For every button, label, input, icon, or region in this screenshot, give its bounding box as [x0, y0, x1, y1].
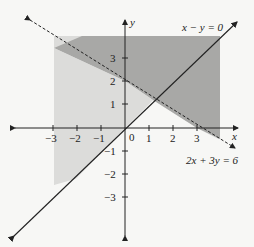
- xtick-label-neg3: −3: [45, 132, 57, 144]
- ytick-label-1: 1: [110, 98, 116, 110]
- xtick-label-3: 3: [194, 132, 200, 144]
- ytick-label-neg1: −1: [104, 145, 116, 157]
- xtick-label-2: 2: [170, 132, 176, 144]
- xtick-label-neg1: −1: [93, 132, 105, 144]
- ytick-label-neg2: −2: [104, 168, 116, 180]
- ytick-label-2: 2: [110, 75, 116, 87]
- y-axis-label: y: [129, 16, 135, 28]
- line-label-2x-plus-3y: 2x + 3y = 6: [186, 154, 239, 166]
- region-plot: −3 −2 −1 0 1 2 3 3 2 1 −1 −2 −3 x y x − …: [0, 0, 254, 247]
- ytick-label-3: 3: [110, 52, 116, 64]
- x-axis-label: x: [231, 130, 237, 142]
- origin-label: 0: [129, 131, 135, 143]
- xtick-label-1: 1: [146, 132, 152, 144]
- line-label-x-minus-y: x − y = 0: [181, 21, 224, 33]
- ytick-label-neg3: −3: [104, 191, 116, 203]
- xtick-label-neg2: −2: [69, 132, 81, 144]
